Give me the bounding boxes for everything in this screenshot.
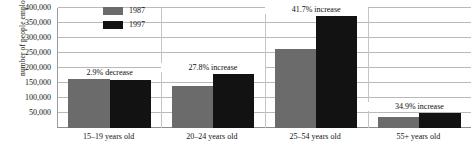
x-axis-category: 20–24 years old [160,132,263,142]
y-axis-tick: 400,000 [25,4,51,12]
y-axis-tick: 350,000 [25,19,51,27]
bar [419,113,460,128]
bar [213,74,254,128]
legend: 1987 1997 [103,5,183,33]
bar [316,16,357,129]
x-axis-labels: 15–19 years old 20–24 years old 25–54 ye… [57,132,471,146]
bar [172,86,213,128]
y-axis-tick: 250,000 [25,49,51,57]
x-axis-category: 55+ years old [367,132,470,142]
legend-label: 1987 [129,7,145,15]
bar [378,117,419,128]
x-axis-category: 25–54 years old [264,132,367,142]
bar-annotation: 34.9% increase [368,102,471,111]
y-axis-tick: 100,000 [25,94,51,102]
legend-item-1997: 1997 [103,19,183,30]
x-axis-category: 15–19 years old [57,132,160,142]
bar-chart: number of people employed 400,000 350,00… [0,0,475,146]
y-axis-tick: 300,000 [25,34,51,42]
legend-swatch-icon [103,7,123,15]
legend-swatch-icon [103,21,123,29]
y-axis-tick: 200,000 [25,64,51,72]
bar [275,49,316,129]
bar-annotation: 2.9% decrease [58,68,161,77]
y-axis-tick: 50,000 [29,109,51,117]
bar-annotation: 41.7% increase [265,5,368,14]
legend-label: 1997 [129,21,145,29]
bar [68,79,109,129]
y-axis-tick-labels: 400,000 350,000 300,000 250,000 200,000 … [0,0,54,130]
bar [110,80,151,128]
y-axis-tick: 150,000 [25,79,51,87]
legend-item-1987: 1987 [103,5,183,16]
bar-annotation: 27.8% increase [161,63,264,72]
